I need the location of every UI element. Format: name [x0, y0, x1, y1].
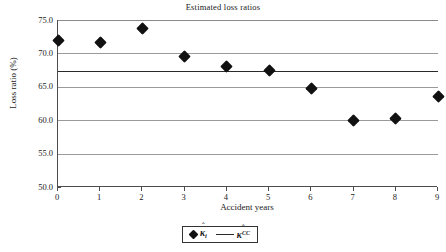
- x-tick-mark: [226, 187, 227, 191]
- y-tick-label: 65.0: [23, 82, 53, 91]
- gridline: [58, 20, 438, 21]
- data-point-marker: [136, 22, 149, 35]
- data-point-marker: [305, 82, 318, 95]
- reference-line-kappa-cc: [58, 71, 438, 73]
- y-tick-label: 75.0: [23, 16, 53, 25]
- data-point-marker: [94, 36, 107, 49]
- x-tick-mark: [184, 187, 185, 191]
- x-tick-mark: [141, 187, 142, 191]
- kappa-hat-i-symbol: ˆκi: [200, 228, 207, 238]
- x-tick-label: 9: [425, 192, 446, 202]
- chart-figure: Estimated loss ratios Loss ratio (%) 50.…: [0, 0, 446, 252]
- gridline: [58, 53, 438, 54]
- plot-area: [57, 20, 437, 187]
- gridline: [58, 87, 438, 88]
- chart-legend: ˆκi ˆκCC: [182, 226, 258, 243]
- data-point-marker: [432, 90, 445, 103]
- x-tick-mark: [395, 187, 396, 191]
- x-tick-mark: [57, 187, 58, 191]
- diamond-marker-icon: [189, 230, 199, 240]
- x-tick-label: 5: [256, 192, 280, 202]
- legend-entry-kappa-cc: ˆκCC: [216, 229, 250, 240]
- y-axis-title: Loss ratio (%): [8, 23, 18, 143]
- data-point-marker: [178, 50, 191, 63]
- legend-entry-kappa-i: ˆκi: [190, 229, 207, 240]
- x-tick-mark: [99, 187, 100, 191]
- x-tick-label: 3: [172, 192, 196, 202]
- x-tick-mark: [437, 187, 438, 191]
- data-point-marker: [347, 114, 360, 127]
- chart-title: Estimated loss ratios: [0, 2, 446, 12]
- y-tick-label: 50.0: [23, 183, 53, 192]
- x-tick-label: 6: [298, 192, 322, 202]
- legend-label-kappa-cc: ˆκCC: [237, 229, 250, 240]
- x-tick-label: 1: [87, 192, 111, 202]
- y-tick-label: 60.0: [23, 116, 53, 125]
- x-tick-mark: [310, 187, 311, 191]
- legend-label-kappa-i: ˆκi: [200, 229, 207, 240]
- y-tick-label: 70.0: [23, 49, 53, 58]
- gridline: [58, 154, 438, 155]
- x-tick-label: 4: [214, 192, 238, 202]
- x-tick-mark: [353, 187, 354, 191]
- x-tick-mark: [268, 187, 269, 191]
- x-tick-label: 0: [45, 192, 69, 202]
- data-point-marker: [52, 34, 65, 47]
- y-tick-label: 55.0: [23, 149, 53, 158]
- y-axis-ticks: 50.055.060.065.070.075.0: [19, 20, 53, 187]
- hat-accent-icon: ˆ: [237, 225, 250, 233]
- data-point-marker: [263, 64, 276, 77]
- x-axis-title: Accident years: [57, 202, 437, 212]
- gridline: [58, 120, 438, 121]
- line-marker-icon: [216, 234, 234, 236]
- kappa-hat-cc-symbol: ˆκCC: [237, 230, 250, 240]
- subscript-i: i: [205, 232, 207, 239]
- hat-accent-icon: ˆ: [200, 223, 207, 231]
- data-point-marker: [389, 112, 402, 125]
- x-tick-label: 8: [383, 192, 407, 202]
- x-tick-label: 7: [341, 192, 365, 202]
- x-tick-label: 2: [129, 192, 153, 202]
